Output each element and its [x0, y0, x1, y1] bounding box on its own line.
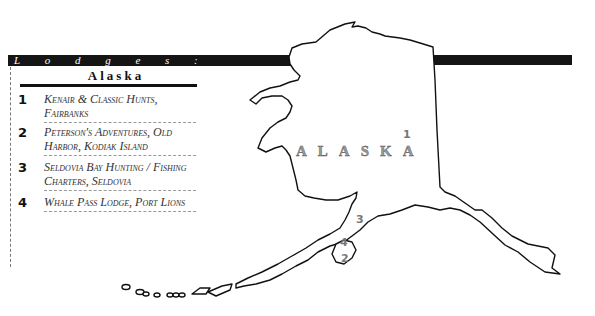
- map-marker-3: 3: [356, 213, 364, 226]
- aleutian-island: [122, 285, 130, 290]
- aleutian-island: [154, 293, 160, 297]
- aleutian-island: [208, 284, 232, 296]
- map-marker-4: 4: [340, 236, 348, 249]
- map-state-label: ALASKA: [296, 143, 425, 160]
- aleutian-island: [192, 288, 210, 294]
- map-marker-1: 1: [403, 128, 411, 141]
- aleutian-island: [167, 293, 173, 297]
- aleutian-island: [173, 293, 179, 297]
- aleutian-island: [179, 293, 185, 297]
- map-marker-2: 2: [341, 252, 349, 265]
- aleutian-island: [143, 292, 149, 296]
